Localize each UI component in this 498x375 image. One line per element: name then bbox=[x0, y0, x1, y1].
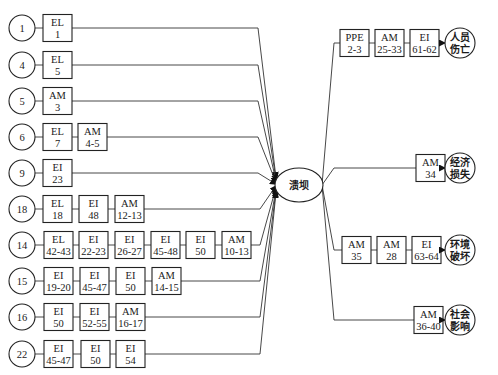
barrier-range: 48 bbox=[88, 210, 99, 221]
barrier-box: EL5 bbox=[43, 52, 72, 79]
barrier-code: AM bbox=[121, 198, 139, 209]
mitigation-range: 63-64 bbox=[414, 251, 439, 262]
barrier-box: AM10-13 bbox=[222, 232, 251, 259]
barrier-box: EI54 bbox=[116, 341, 145, 368]
cause-event-id: 5 bbox=[19, 96, 24, 107]
barrier-box: EI22-23 bbox=[79, 232, 108, 259]
barrier-box: AM4-5 bbox=[78, 124, 107, 151]
barrier-box: EI48 bbox=[79, 196, 108, 223]
consequence-chain-2: AM34经济损失 bbox=[416, 153, 475, 183]
cause-connector bbox=[251, 187, 276, 245]
barrier-code: EI bbox=[54, 270, 64, 281]
mitigation-range: 34 bbox=[425, 169, 436, 180]
consequence-outcome: 人员伤亡 bbox=[445, 28, 475, 58]
mitigation-range: 61-62 bbox=[412, 44, 437, 55]
cause-chain-22: 22EI45-47EI50EI54 bbox=[9, 341, 145, 368]
barrier-range: 3 bbox=[55, 102, 60, 113]
barrier-code: EI bbox=[126, 343, 136, 354]
barrier-range: 22-23 bbox=[81, 246, 106, 257]
cause-chain-16: 16EI50EI52-55AM16-17 bbox=[9, 304, 145, 331]
barrier-code: EL bbox=[51, 54, 64, 65]
barrier-range: 54 bbox=[125, 355, 136, 366]
barrier-code: EL bbox=[51, 17, 64, 28]
barrier-box: EI50 bbox=[186, 232, 215, 259]
center-event-label: 溃坝 bbox=[289, 179, 309, 191]
cause-chain-5: 5AM3 bbox=[9, 88, 72, 115]
barrier-code: EI bbox=[90, 306, 100, 317]
barrier-code: EL bbox=[51, 126, 64, 137]
barrier-box: AM14-15 bbox=[152, 268, 181, 295]
barrier-code: AM bbox=[49, 90, 67, 101]
barrier-range: 14-15 bbox=[154, 282, 179, 293]
cause-chain-6: 6EL7AM4-5 bbox=[9, 124, 107, 151]
cause-chain-4: 4EL5 bbox=[9, 52, 72, 79]
barrier-box: AM3 bbox=[43, 88, 72, 115]
barrier-box: AM12-13 bbox=[115, 196, 144, 223]
barrier-box: EL1 bbox=[43, 15, 72, 42]
barrier-code: EI bbox=[53, 162, 63, 173]
mitigation-box: EI61-62 bbox=[410, 30, 439, 57]
barrier-box: EI26-27 bbox=[115, 232, 144, 259]
barrier-box: EI23 bbox=[43, 160, 72, 187]
mitigation-box: AM34 bbox=[416, 155, 445, 182]
cause-chain-15: 15EI19-20EI45-47EI50AM14-15 bbox=[9, 268, 181, 295]
barrier-box: EI45-47 bbox=[80, 268, 109, 295]
barrier-code: EL bbox=[51, 198, 64, 209]
consequence-chain-3: AM35AM28EI63-64环境破坏 bbox=[342, 235, 475, 265]
outcome-label-line1: 社会 bbox=[449, 308, 470, 320]
consequence-chain-4: AM36-40社会影响 bbox=[414, 305, 475, 335]
barrier-box: EI45-47 bbox=[44, 341, 73, 368]
outcome-label-line1: 环境 bbox=[450, 238, 470, 250]
barrier-range: 16-17 bbox=[118, 318, 143, 329]
mitigation-box: AM28 bbox=[377, 237, 406, 264]
barrier-code: EI bbox=[54, 306, 64, 317]
barrier-code: EL bbox=[52, 234, 65, 245]
mitigation-box: EI63-64 bbox=[412, 237, 441, 264]
barrier-code: EI bbox=[196, 234, 206, 245]
barrier-box: EL7 bbox=[43, 124, 72, 151]
barrier-range: 45-47 bbox=[46, 355, 71, 366]
barrier-code: EI bbox=[161, 234, 171, 245]
cause-connector bbox=[107, 137, 276, 183]
mitigation-box: AM36-40 bbox=[414, 307, 443, 334]
outcome-label-line2: 破坏 bbox=[450, 250, 470, 262]
consequence-connector bbox=[322, 43, 340, 185]
barrier-box: EI19-20 bbox=[44, 268, 73, 295]
barrier-code: AM bbox=[158, 270, 176, 281]
bowtie-diagram: 1EL14EL55AM36EL7AM4-59EI2318EL18EI48AM12… bbox=[0, 0, 498, 375]
barrier-code: AM bbox=[84, 126, 102, 137]
cause-connector bbox=[144, 186, 276, 209]
cause-chain-18: 18EL18EI48AM12-13 bbox=[9, 196, 144, 223]
barrier-code: EI bbox=[126, 270, 136, 281]
barrier-code: AM bbox=[228, 234, 246, 245]
barrier-range: 12-13 bbox=[117, 210, 142, 221]
cause-connector bbox=[72, 173, 276, 184]
cause-event-id: 1 bbox=[19, 23, 24, 34]
center-event: 溃坝 bbox=[275, 168, 323, 202]
mitigation-range: 35 bbox=[351, 251, 362, 262]
outcome-label-line2: 损失 bbox=[450, 168, 471, 180]
cause-event-id: 4 bbox=[19, 60, 25, 71]
barrier-box: EL18 bbox=[43, 196, 72, 223]
barrier-range: 50 bbox=[125, 282, 136, 293]
consequence-outcome: 环境破坏 bbox=[445, 235, 475, 265]
barrier-box: EI50 bbox=[116, 268, 145, 295]
barrier-box: EI52-55 bbox=[80, 304, 109, 331]
barrier-range: 50 bbox=[53, 318, 64, 329]
barrier-range: 45-48 bbox=[153, 246, 178, 257]
outcome-label-line1: 人员 bbox=[450, 31, 470, 43]
barrier-range: 50 bbox=[90, 355, 101, 366]
mitigation-code: EI bbox=[420, 32, 430, 43]
cause-event-id: 18 bbox=[17, 204, 28, 215]
outcome-label-line2: 伤亡 bbox=[449, 43, 470, 55]
barrier-code: EI bbox=[54, 343, 64, 354]
barrier-range: 52-55 bbox=[82, 318, 107, 329]
barrier-code: AM bbox=[122, 306, 140, 317]
mitigation-range: 2-3 bbox=[348, 44, 362, 55]
mitigation-box: PPE2-3 bbox=[340, 30, 369, 57]
consequence-outcome: 经济损失 bbox=[445, 153, 475, 183]
barrier-code: EI bbox=[89, 198, 99, 209]
barrier-code: EI bbox=[125, 234, 135, 245]
cause-event-id: 22 bbox=[17, 349, 28, 360]
outcome-label-line2: 影响 bbox=[450, 320, 470, 332]
